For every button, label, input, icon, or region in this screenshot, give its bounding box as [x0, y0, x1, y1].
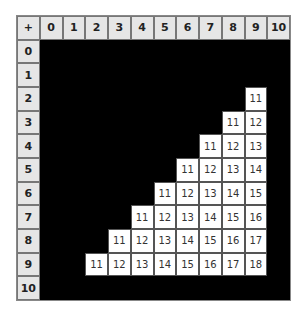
- hidden-cell: [267, 40, 290, 64]
- hidden-cell: [40, 229, 63, 253]
- hidden-cell: [245, 63, 268, 87]
- column-header: 9: [245, 16, 268, 40]
- hidden-cell: [131, 63, 154, 87]
- sum-cell: 11: [245, 87, 268, 111]
- hidden-cell: [63, 158, 86, 182]
- hidden-cell: [63, 87, 86, 111]
- hidden-cell: [154, 134, 177, 158]
- column-header: 1: [63, 16, 86, 40]
- hidden-cell: [85, 87, 108, 111]
- sum-cell: 17: [222, 253, 245, 277]
- hidden-cell: [63, 229, 86, 253]
- hidden-cell: [40, 182, 63, 206]
- sum-cell: 13: [222, 158, 245, 182]
- hidden-cell: [267, 276, 290, 300]
- column-header: 8: [222, 16, 245, 40]
- hidden-cell: [176, 40, 199, 64]
- hidden-cell: [131, 87, 154, 111]
- sum-cell: 14: [199, 205, 222, 229]
- sum-cell: 12: [245, 111, 268, 135]
- sum-cell: 16: [199, 253, 222, 277]
- sum-cell: 18: [245, 253, 268, 277]
- hidden-cell: [154, 158, 177, 182]
- column-header: 3: [108, 16, 131, 40]
- sum-cell: 12: [108, 253, 131, 277]
- sum-cell: 11: [108, 229, 131, 253]
- hidden-cell: [40, 40, 63, 64]
- row-header: 7: [17, 205, 40, 229]
- hidden-cell: [63, 134, 86, 158]
- column-header: 7: [199, 16, 222, 40]
- hidden-cell: [40, 253, 63, 277]
- sum-cell: 13: [245, 134, 268, 158]
- sum-cell: 15: [222, 205, 245, 229]
- hidden-cell: [85, 276, 108, 300]
- row-header: 3: [17, 111, 40, 135]
- hidden-cell: [222, 63, 245, 87]
- hidden-cell: [108, 111, 131, 135]
- sum-cell: 14: [245, 158, 268, 182]
- hidden-cell: [63, 205, 86, 229]
- sum-cell: 12: [176, 182, 199, 206]
- sum-cell: 12: [222, 134, 245, 158]
- hidden-cell: [85, 158, 108, 182]
- hidden-cell: [222, 87, 245, 111]
- hidden-cell: [154, 111, 177, 135]
- column-header: 10: [267, 16, 290, 40]
- hidden-cell: [108, 158, 131, 182]
- hidden-cell: [40, 111, 63, 135]
- row-header: 5: [17, 158, 40, 182]
- hidden-cell: [63, 111, 86, 135]
- hidden-cell: [40, 87, 63, 111]
- sum-cell: 12: [131, 229, 154, 253]
- hidden-cell: [199, 111, 222, 135]
- sum-cell: 11: [131, 205, 154, 229]
- hidden-cell: [85, 111, 108, 135]
- hidden-cell: [131, 158, 154, 182]
- hidden-cell: [40, 63, 63, 87]
- row-header: 8: [17, 229, 40, 253]
- column-header: 5: [154, 16, 177, 40]
- sum-cell: 11: [222, 111, 245, 135]
- hidden-cell: [85, 134, 108, 158]
- hidden-cell: [63, 182, 86, 206]
- row-header: 4: [17, 134, 40, 158]
- sum-cell: 16: [245, 205, 268, 229]
- hidden-cell: [176, 63, 199, 87]
- sum-cell: 11: [85, 253, 108, 277]
- row-header: 9: [17, 253, 40, 277]
- hidden-cell: [199, 276, 222, 300]
- hidden-cell: [85, 182, 108, 206]
- sum-cell: 12: [199, 158, 222, 182]
- hidden-cell: [267, 182, 290, 206]
- row-header: 10: [17, 276, 40, 300]
- hidden-cell: [63, 276, 86, 300]
- row-header: 6: [17, 182, 40, 206]
- hidden-cell: [108, 276, 131, 300]
- hidden-cell: [154, 40, 177, 64]
- sum-cell: 13: [154, 229, 177, 253]
- hidden-cell: [267, 63, 290, 87]
- hidden-cell: [199, 87, 222, 111]
- hidden-cell: [131, 182, 154, 206]
- hidden-cell: [63, 40, 86, 64]
- hidden-cell: [154, 87, 177, 111]
- column-header: 4: [131, 16, 154, 40]
- sum-cell: 11: [176, 158, 199, 182]
- addition-table: +012345678910012113111241112135111213146…: [17, 16, 290, 300]
- row-header: 2: [17, 87, 40, 111]
- hidden-cell: [108, 87, 131, 111]
- column-header: 0: [40, 16, 63, 40]
- hidden-cell: [176, 87, 199, 111]
- hidden-cell: [108, 205, 131, 229]
- sum-cell: 12: [154, 205, 177, 229]
- hidden-cell: [131, 276, 154, 300]
- hidden-cell: [222, 40, 245, 64]
- hidden-cell: [108, 134, 131, 158]
- hidden-cell: [108, 63, 131, 87]
- column-header: 6: [176, 16, 199, 40]
- hidden-cell: [40, 134, 63, 158]
- hidden-cell: [267, 134, 290, 158]
- hidden-cell: [40, 205, 63, 229]
- sum-cell: 13: [199, 182, 222, 206]
